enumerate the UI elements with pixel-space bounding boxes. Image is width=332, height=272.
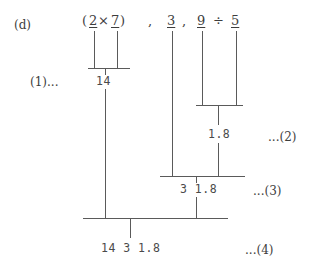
- step1-result: 14: [96, 76, 111, 88]
- expression-close-paren: ): [120, 14, 125, 27]
- reduction-diagram-figure: (d) ( 2 × 7 ) , 3 , 9 ÷ 5 14 (1)... 1.8 …: [0, 0, 332, 272]
- step3-marker: ...(3): [253, 185, 281, 197]
- join-bar-step3: [160, 176, 245, 177]
- branch-line-operand-c: [172, 31, 173, 176]
- stem-step4-down: [130, 218, 131, 238]
- expression-comma-1: ,: [148, 14, 152, 27]
- expression-operand-b: 7: [111, 14, 119, 27]
- expression-operand-d: 9: [197, 14, 205, 27]
- join-bar-step4: [83, 218, 228, 219]
- expression-operand-c: 3: [167, 14, 175, 27]
- branch-line-operand-b: [117, 31, 118, 68]
- join-bar-step2: [196, 105, 243, 106]
- branch-line-operand-e: [236, 31, 237, 105]
- expression-comma-2: ,: [182, 14, 186, 27]
- expression-open-paren: (: [82, 14, 87, 27]
- step4-marker: ...(4): [245, 244, 273, 256]
- stem-step2-down: [218, 143, 219, 176]
- expression-times-sign: ×: [98, 14, 109, 27]
- step4-result: 14 3 1.8: [101, 243, 160, 255]
- branch-line-operand-a: [94, 31, 95, 68]
- stem-step1-down: [105, 89, 106, 218]
- part-label: (d): [14, 19, 31, 31]
- stem-step2-up: [218, 105, 219, 125]
- stem-step3-down: [196, 197, 197, 218]
- step2-result: 1.8: [208, 129, 230, 141]
- join-bar-step1: [88, 68, 130, 69]
- step3-result: 3 1.8: [180, 184, 217, 196]
- branch-line-operand-d: [202, 31, 203, 105]
- step1-marker: (1)...: [30, 76, 58, 88]
- expression-divide-sign: ÷: [213, 14, 224, 27]
- expression-operand-a: 2: [89, 14, 97, 27]
- expression-operand-e: 5: [231, 14, 239, 27]
- step2-marker: ...(2): [268, 131, 296, 143]
